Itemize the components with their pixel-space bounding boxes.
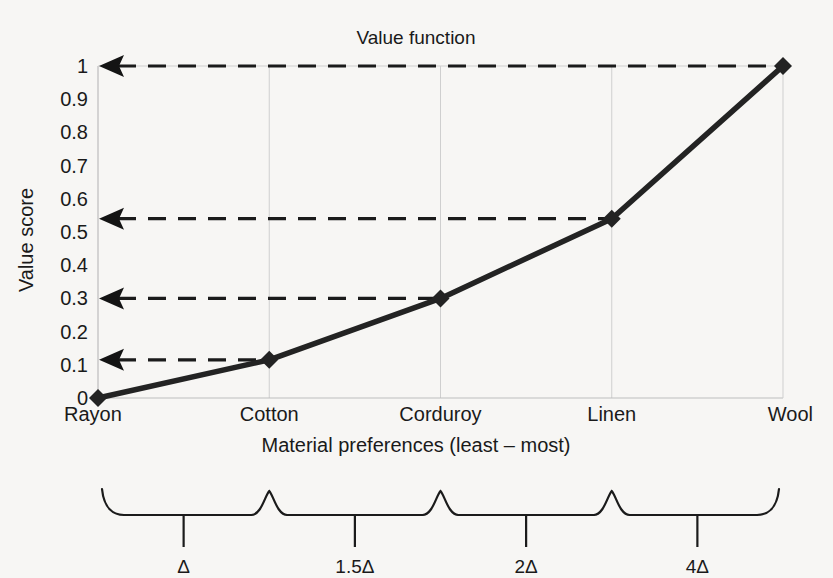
data-point-marker: [260, 351, 278, 369]
data-point-marker: [432, 289, 450, 307]
y-axis-tick-labels: 00.10.20.30.40.50.60.70.80.91: [60, 55, 88, 409]
x-axis-category-label: Wool: [768, 403, 813, 425]
x-axis-category-label: Rayon: [64, 403, 122, 425]
y-axis-tick-label: 0.2: [60, 321, 88, 343]
brace-left-end: [102, 489, 124, 515]
x-axis-category-label: Corduroy: [399, 403, 481, 425]
y-axis-tick-label: 0.8: [60, 121, 88, 143]
brace-delta-label: Δ: [177, 556, 190, 577]
y-axis-tick-label: 0.1: [60, 354, 88, 376]
brace-left-end: [594, 491, 630, 515]
brace-delta-label: 2Δ: [514, 556, 538, 577]
x-axis-category-labels: RayonCottonCorduroyLinenWool: [64, 403, 813, 425]
brace-right-end: [757, 489, 779, 515]
y-axis-tick-label: 1: [77, 55, 88, 77]
y-axis-tick-label: 0.6: [60, 188, 88, 210]
y-axis-tick-label: 0.9: [60, 88, 88, 110]
interval-braces: Δ1.5Δ2Δ4Δ: [102, 489, 779, 577]
y-axis-tick-label: 0.5: [60, 221, 88, 243]
value-function-chart: Value function Value score 00.10.20.30.4…: [0, 0, 833, 578]
chart-title: Value function: [356, 27, 475, 48]
brace-delta-label: 4Δ: [686, 556, 710, 577]
y-axis-tick-label: 0.7: [60, 155, 88, 177]
brace-left-end: [251, 491, 287, 515]
x-axis-title: Material preferences (least – most): [261, 434, 570, 456]
brace-delta-label: 1.5Δ: [335, 556, 374, 577]
brace-left-end: [423, 491, 459, 515]
y-axis-tick-label: 0.3: [60, 287, 88, 309]
gridlines: [269, 66, 612, 398]
x-axis-category-label: Linen: [587, 403, 636, 425]
y-axis-tick-label: 0.4: [60, 254, 88, 276]
figure-container: Value function Value score 00.10.20.30.4…: [0, 0, 833, 578]
y-axis-title: Value score: [15, 188, 37, 292]
x-axis-category-label: Cotton: [240, 403, 299, 425]
